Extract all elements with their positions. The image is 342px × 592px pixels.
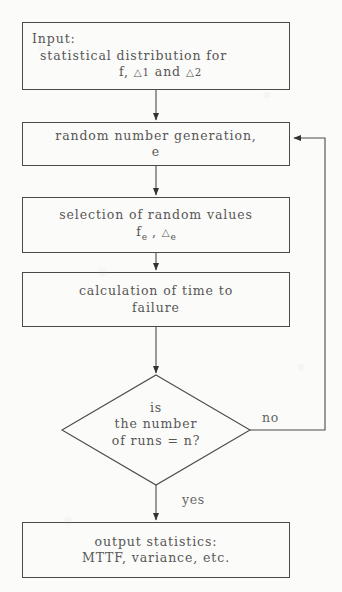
node-input-f-label: f, [119, 64, 134, 79]
node-random-number-generation: random number generation, e [22, 122, 290, 166]
delta-e-subscript: e [170, 231, 175, 241]
node-random-line1: random number generation, [55, 128, 256, 145]
node-input-and: and [150, 64, 186, 79]
node-decision-line2: the number [62, 416, 250, 432]
node-calculation-line1: calculation of time to [79, 283, 233, 300]
node-random-line2: e [152, 144, 160, 161]
node-selection-line2: fe , △e [136, 224, 176, 243]
node-output-line2: MTTF, variance, etc. [82, 550, 230, 567]
node-decision-line1: is [62, 400, 250, 416]
node-input-line1: Input: [32, 31, 76, 48]
node-selection-line1: selection of random values [59, 207, 253, 224]
node-calculation-line2: failure [132, 300, 180, 317]
node-input-line2: statistical distribution for [32, 48, 227, 65]
node-selection-of-random-values: selection of random values fe , △e [22, 197, 290, 253]
flowchart-canvas: Input: statistical distribution for f, △… [0, 0, 342, 592]
selection-separator: , [147, 224, 162, 239]
delta2-symbol: △2 [186, 66, 202, 78]
node-input: Input: statistical distribution for f, △… [22, 22, 290, 90]
node-output-line1: output statistics: [95, 534, 218, 551]
node-decision-line3: of runs = n? [62, 433, 250, 449]
edge-label-yes: yes [182, 492, 205, 507]
node-input-line3: f, △1 and △2 [119, 64, 202, 81]
node-output-statistics: output statistics: MTTF, variance, etc. [22, 522, 290, 578]
node-calculation-time-to-failure: calculation of time to failure [22, 272, 290, 327]
delta1-symbol: △1 [134, 66, 150, 78]
edge-label-no: no [262, 410, 279, 425]
node-decision-text: is the number of runs = n? [62, 400, 250, 449]
